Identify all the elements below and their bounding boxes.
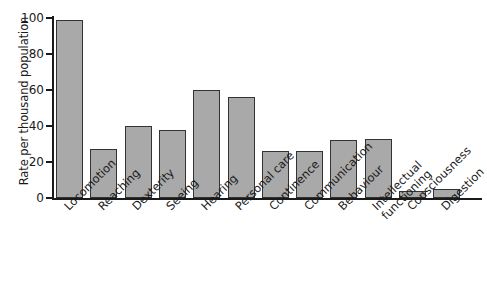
- bar: [56, 20, 83, 198]
- plot-area: 020406080100 LocomotionReachingDexterity…: [0, 0, 487, 282]
- bar-chart: Rate per thousand population 02040608010…: [0, 0, 487, 282]
- bar-series: [0, 0, 487, 282]
